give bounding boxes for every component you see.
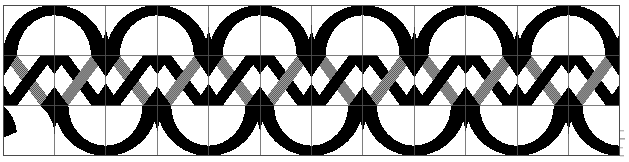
ornament-plate bbox=[3, 5, 620, 156]
figure-canvas bbox=[0, 0, 629, 162]
interlace-pattern-artwork bbox=[3, 5, 620, 156]
